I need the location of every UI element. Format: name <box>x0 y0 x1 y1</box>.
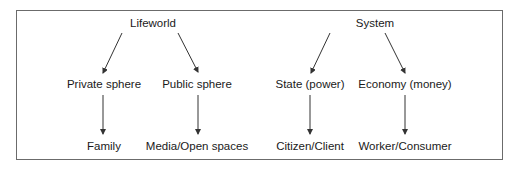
node-system: System <box>356 18 394 30</box>
node-lifeworld: Lifeworld <box>130 18 176 30</box>
arrow-system-state <box>311 33 330 73</box>
node-public-sphere: Public sphere <box>162 79 232 91</box>
arrow-system-economy <box>385 33 405 73</box>
node-citizen-client: Citizen/Client <box>276 141 344 153</box>
arrow-lifeworld-public <box>178 33 198 72</box>
node-family: Family <box>87 141 121 153</box>
node-private-sphere: Private sphere <box>67 79 141 91</box>
node-economy-money: Economy (money) <box>358 79 451 91</box>
node-state-power: State (power) <box>275 79 344 91</box>
node-media-open-spaces: Media/Open spaces <box>146 141 248 153</box>
node-worker-consumer: Worker/Consumer <box>358 141 451 153</box>
arrow-lifeworld-private <box>103 33 122 73</box>
